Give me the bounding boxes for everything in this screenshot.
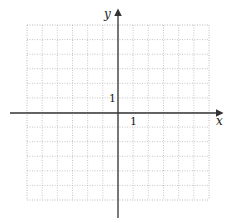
coordinate-plane: x y 1 1 xyxy=(0,0,235,223)
y-axis-label: y xyxy=(103,7,111,21)
y-tick-label-one: 1 xyxy=(109,92,116,105)
x-tick-label-one: 1 xyxy=(130,115,137,128)
x-axis-label: x xyxy=(216,114,223,128)
